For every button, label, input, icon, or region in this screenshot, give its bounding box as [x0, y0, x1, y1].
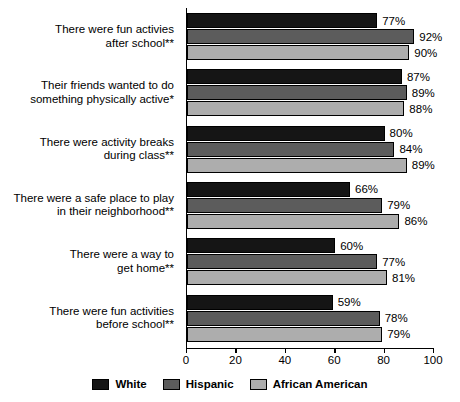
bar[interactable]	[187, 126, 385, 141]
legend-item[interactable]: White	[92, 378, 146, 390]
category-label-line: in their neighborhood**	[0, 205, 174, 219]
x-axis-tick	[334, 348, 335, 353]
bar-value-label: 60%	[335, 240, 363, 252]
legend-swatch-icon	[92, 379, 109, 390]
x-axis-tick-label: 40	[278, 354, 291, 366]
category-label-line: during class**	[0, 149, 174, 163]
category-axis-labels: There were fun activiesafter school**The…	[0, 8, 180, 348]
bar[interactable]	[187, 270, 387, 285]
bar[interactable]	[187, 85, 407, 100]
bar-row: 88%	[187, 101, 434, 116]
legend: WhiteHispanicAfrican American	[0, 378, 460, 390]
category-label: There were a way toget home**	[0, 248, 174, 275]
bar-group: 59%78%79%	[187, 295, 434, 343]
bar-row: 66%	[187, 182, 434, 197]
x-axis-tick	[384, 348, 385, 353]
bar-chart: There were fun activiesafter school**The…	[0, 0, 460, 402]
bar-group: 66%79%86%	[187, 182, 434, 230]
bar[interactable]	[187, 295, 333, 310]
bar[interactable]	[187, 254, 377, 269]
category-label: There were a safe place to playin their …	[0, 192, 174, 219]
bar[interactable]	[187, 45, 409, 60]
bar-value-label: 77%	[377, 256, 405, 268]
bar-value-label: 78%	[380, 312, 408, 324]
category-label-line: There were fun activities	[0, 305, 174, 319]
legend-label: Hispanic	[186, 378, 234, 390]
bar-row: 92%	[187, 29, 434, 44]
bar-row: 59%	[187, 295, 434, 310]
bar-value-label: 79%	[382, 199, 410, 211]
bar-group: 77%92%90%	[187, 13, 434, 61]
bar-row: 90%	[187, 45, 434, 60]
category-label-line: get home**	[0, 262, 174, 276]
category-label-line: Their friends wanted to do	[0, 79, 174, 93]
category-label-line: There were a safe place to play	[0, 192, 174, 206]
bar-row: 77%	[187, 254, 434, 269]
x-axis-tick-label: 20	[229, 354, 242, 366]
bar[interactable]	[187, 29, 414, 44]
bar-row: 89%	[187, 158, 434, 173]
bar-row: 86%	[187, 214, 434, 229]
bar-value-label: 92%	[414, 31, 442, 43]
category-label: There were fun activiesafter school**	[0, 23, 174, 50]
bar-row: 79%	[187, 327, 434, 342]
bar-row: 89%	[187, 85, 434, 100]
category-label-line: There were a way to	[0, 248, 174, 262]
bar-row: 79%	[187, 198, 434, 213]
x-axis-tick-label: 80	[377, 354, 390, 366]
bar-value-label: 89%	[407, 159, 435, 171]
bar-row: 87%	[187, 69, 434, 84]
x-axis-tick	[235, 348, 236, 353]
category-label-line: There were fun activies	[0, 23, 174, 37]
bar-group: 60%77%81%	[187, 238, 434, 286]
bar-value-label: 89%	[407, 87, 435, 99]
bar[interactable]	[187, 182, 350, 197]
bar-value-label: 86%	[399, 215, 427, 227]
x-axis-tick	[186, 348, 187, 353]
bar-value-label: 84%	[394, 143, 422, 155]
bar[interactable]	[187, 101, 404, 116]
category-label: There were activity breaksduring class**	[0, 136, 174, 163]
bar-value-label: 88%	[404, 103, 432, 115]
legend-swatch-icon	[250, 379, 267, 390]
bar-value-label: 79%	[382, 328, 410, 340]
bar-value-label: 87%	[402, 71, 430, 83]
category-label-line: before school**	[0, 318, 174, 332]
bar-value-label: 90%	[409, 47, 437, 59]
bar-value-label: 80%	[385, 127, 413, 139]
x-axis-tick	[433, 348, 434, 353]
bar[interactable]	[187, 214, 399, 229]
bar-value-label: 59%	[333, 296, 361, 308]
bar[interactable]	[187, 238, 335, 253]
bar-row: 78%	[187, 311, 434, 326]
bar[interactable]	[187, 327, 382, 342]
category-label-line: something physically active*	[0, 93, 174, 107]
bar[interactable]	[187, 69, 402, 84]
legend-item[interactable]: African American	[250, 378, 368, 390]
bar[interactable]	[187, 158, 407, 173]
legend-label: African American	[273, 378, 368, 390]
bar[interactable]	[187, 311, 380, 326]
legend-item[interactable]: Hispanic	[163, 378, 234, 390]
x-axis-tick-labels: 020406080100	[186, 354, 433, 370]
legend-label: White	[115, 378, 146, 390]
x-axis-tick-label: 100	[423, 354, 442, 366]
bar[interactable]	[187, 13, 377, 28]
bar-row: 81%	[187, 270, 434, 285]
bar-row: 84%	[187, 142, 434, 157]
bar[interactable]	[187, 142, 394, 157]
plot-area: 77%92%90%87%89%88%80%84%89%66%79%86%60%7…	[186, 8, 434, 349]
bar-value-label: 81%	[387, 272, 415, 284]
category-label-line: after school**	[0, 37, 174, 51]
category-label: Their friends wanted to dosomething phys…	[0, 79, 174, 106]
x-axis-tick	[285, 348, 286, 353]
category-label-line: There were activity breaks	[0, 136, 174, 150]
bar-row: 80%	[187, 126, 434, 141]
bar-row: 60%	[187, 238, 434, 253]
bar[interactable]	[187, 198, 382, 213]
bar-group: 87%89%88%	[187, 69, 434, 117]
category-label: There were fun activitiesbefore school**	[0, 305, 174, 332]
legend-swatch-icon	[163, 379, 180, 390]
bar-row: 77%	[187, 13, 434, 28]
bar-group: 80%84%89%	[187, 126, 434, 174]
